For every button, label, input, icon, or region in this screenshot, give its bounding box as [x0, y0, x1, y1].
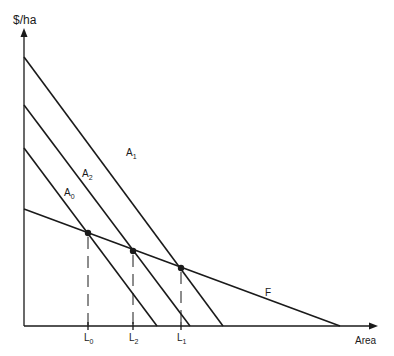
- intersection-point-l0: [85, 230, 91, 236]
- x-tick-label-l2: L2: [129, 332, 139, 345]
- intersection-point-l1: [178, 265, 184, 271]
- curve-a2: [24, 105, 190, 326]
- curve-label-a2: A2: [82, 168, 93, 181]
- x-tick-label-l1: L1: [177, 332, 187, 345]
- x-tick-label-l0: L0: [84, 332, 94, 345]
- curve-a1: [24, 57, 223, 326]
- curve-label-a1: A1: [126, 147, 137, 160]
- curve-label-f: F: [265, 287, 271, 298]
- diagram-canvas: $/ha Area A1A2A0F L0L2L1: [0, 0, 394, 356]
- x-axis-label: Area: [355, 335, 377, 346]
- x-axis-arrow-icon: [369, 323, 378, 330]
- intersection-point-l2: [130, 248, 136, 254]
- curve-label-a0: A0: [64, 187, 75, 200]
- axes: [24, 36, 371, 326]
- drop-lines-group: L0L2L1: [84, 230, 187, 345]
- y-axis-arrow-icon: [21, 28, 28, 37]
- y-axis-label: $/ha: [13, 13, 37, 27]
- curves-group: A1A2A0F: [24, 57, 340, 326]
